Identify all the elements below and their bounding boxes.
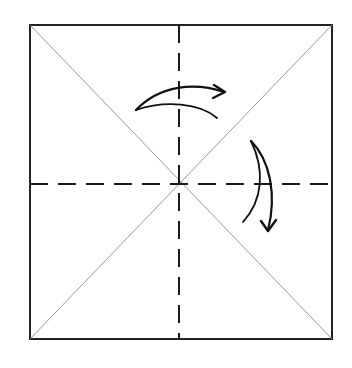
diagram-canvas xyxy=(0,0,352,368)
